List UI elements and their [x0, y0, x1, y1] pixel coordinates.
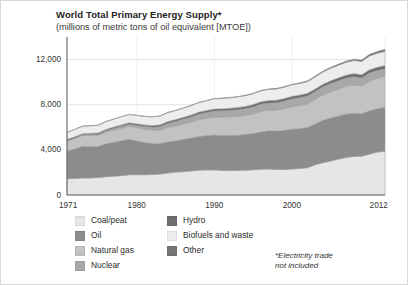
- legend-item[interactable]: Hydro: [167, 213, 253, 228]
- x-tick-label: 1990: [205, 201, 223, 210]
- footnote: *Electricity trade not included: [219, 251, 395, 271]
- energy-supply-chart-figure: World Total Primary Energy Supply* (mill…: [0, 0, 408, 285]
- y-tick-label: 8,000: [21, 100, 61, 109]
- legend-column-left: Coal/peatOilNatural gasNuclear: [75, 213, 134, 273]
- legend-item[interactable]: Coal/peat: [75, 213, 134, 228]
- legend-swatch-coal-peat: [75, 216, 85, 226]
- legend-label: Coal/peat: [91, 216, 127, 225]
- legend-label: Oil: [91, 231, 101, 240]
- legend-label: Hydro: [183, 216, 205, 225]
- legend-label: Natural gas: [91, 246, 134, 255]
- legend-item[interactable]: Oil: [75, 228, 134, 243]
- x-tick-label: 2012: [370, 201, 388, 210]
- footnote-line-2: not included: [275, 261, 318, 270]
- legend-label: Other: [183, 246, 204, 255]
- legend-item[interactable]: Natural gas: [75, 243, 134, 258]
- legend-item[interactable]: Biofuels and waste: [167, 228, 253, 243]
- x-tick-label: 2000: [283, 201, 301, 210]
- legend-swatch-nuclear: [75, 261, 85, 271]
- y-tick-label: 0: [21, 191, 61, 200]
- legend-label: Biofuels and waste: [183, 231, 253, 240]
- x-tick-label: 1971: [59, 201, 77, 210]
- y-tick-label: 12,000: [21, 55, 61, 64]
- footnote-line-1: *Electricity trade: [275, 251, 333, 260]
- y-tick-label: 4,000: [21, 145, 61, 154]
- legend-swatch-biofuels: [167, 231, 177, 241]
- legend-swatch-other: [167, 246, 177, 256]
- legend-swatch-oil: [75, 231, 85, 241]
- legend-label: Nuclear: [91, 261, 120, 270]
- legend-swatch-hydro: [167, 216, 177, 226]
- legend-item[interactable]: Nuclear: [75, 258, 134, 273]
- x-tick-label: 1980: [128, 201, 146, 210]
- legend-swatch-natural-gas: [75, 246, 85, 256]
